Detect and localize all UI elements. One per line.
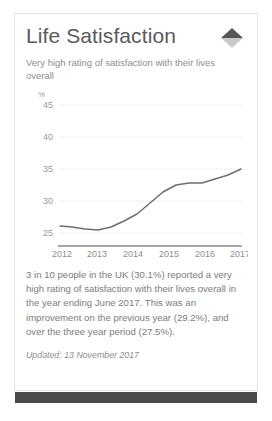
- life-satisfaction-card: Life Satisfaction Very high rating of sa…: [14, 13, 258, 391]
- svg-text:2014: 2014: [123, 249, 143, 259]
- y-axis-tick-labels: 45 40 35 30 25: [43, 100, 53, 238]
- grid-lines: [58, 105, 242, 233]
- svg-text:2012: 2012: [52, 249, 72, 259]
- y-axis-unit-label: %: [38, 90, 45, 99]
- svg-text:35: 35: [43, 164, 53, 174]
- data-line-series-0: [60, 169, 241, 230]
- svg-text:25: 25: [43, 228, 53, 238]
- chart-svg: 45 40 35 30 25 2012 2013 2014 2015 2016 …: [26, 91, 248, 259]
- svg-text:2017: 2017: [230, 249, 248, 259]
- x-axis-tick-labels: 2012 2013 2014 2015 2016 2017: [52, 249, 248, 259]
- card-inner: Life Satisfaction Very high rating of sa…: [15, 14, 257, 390]
- svg-text:2016: 2016: [195, 249, 215, 259]
- card-subtitle: Very high rating of satisfaction with th…: [26, 56, 216, 82]
- line-chart: % 45 40 35 30 25: [26, 91, 246, 259]
- svg-text:40: 40: [43, 132, 53, 142]
- svg-text:30: 30: [43, 196, 53, 206]
- svg-text:2015: 2015: [159, 249, 179, 259]
- collapse-expand-diamond-icon[interactable]: [217, 26, 247, 50]
- card-header: Life Satisfaction Very high rating of sa…: [26, 14, 246, 82]
- page-title: Life Satisfaction: [26, 23, 246, 49]
- footer-bar: [15, 392, 257, 403]
- svg-text:2013: 2013: [87, 249, 107, 259]
- svg-text:45: 45: [43, 100, 53, 110]
- updated-timestamp: Updated: 13 November 2017: [26, 350, 246, 360]
- summary-text: 3 in 10 people in the UK (30.1%) reporte…: [26, 268, 246, 339]
